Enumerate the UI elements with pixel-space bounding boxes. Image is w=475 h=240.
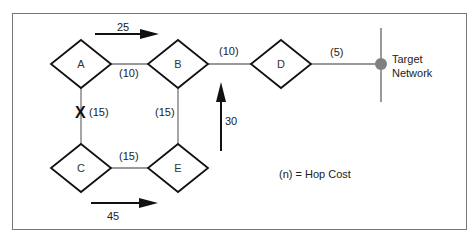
link-broken-x-icon: X xyxy=(75,105,86,121)
node-label-b: B xyxy=(163,58,193,70)
flow-value-45: 45 xyxy=(107,210,119,222)
cost-a-c: (15) xyxy=(89,106,109,118)
node-label-c: C xyxy=(66,162,96,174)
target-network-dot-icon xyxy=(375,58,387,70)
network-diagram xyxy=(0,0,475,240)
cost-b-d: (10) xyxy=(219,45,239,57)
target-label-line2: Network xyxy=(392,67,432,79)
cost-c-e: (15) xyxy=(119,150,139,162)
flow-value-30: 30 xyxy=(225,115,237,127)
cost-b-e: (15) xyxy=(155,106,175,118)
cost-a-b: (10) xyxy=(119,67,139,79)
node-label-a: A xyxy=(66,58,96,70)
flow-value-25: 25 xyxy=(117,21,129,33)
cost-d-target: (5) xyxy=(330,46,343,58)
node-label-e: E xyxy=(163,162,193,174)
target-label-line1: Target xyxy=(392,53,423,65)
legend-hop-cost: (n) = Hop Cost xyxy=(279,168,351,180)
node-label-d: D xyxy=(266,58,296,70)
